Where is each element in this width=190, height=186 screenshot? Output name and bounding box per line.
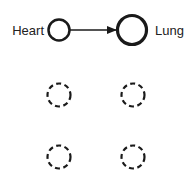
placeholder-node-1[interactable] bbox=[48, 84, 71, 107]
placeholder-node-2[interactable] bbox=[122, 84, 145, 107]
node-lung[interactable]: Lung bbox=[118, 16, 184, 45]
node-label-lung: Lung bbox=[155, 23, 184, 38]
node-circle-heart[interactable] bbox=[49, 20, 70, 41]
placeholder-node-4[interactable] bbox=[122, 146, 145, 169]
placeholder-node-3[interactable] bbox=[48, 146, 71, 169]
node-label-heart: Heart bbox=[12, 23, 44, 38]
node-heart[interactable]: Heart bbox=[12, 20, 69, 41]
node-circle-lung[interactable] bbox=[118, 16, 147, 45]
diagram-canvas: Heart Lung bbox=[0, 0, 190, 186]
